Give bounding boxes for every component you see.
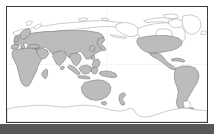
sri-lanka-island	[60, 66, 64, 70]
java-island	[78, 76, 90, 79]
svalbard-island	[26, 21, 33, 26]
greenland	[182, 15, 201, 35]
sumatra-island	[67, 65, 80, 75]
united-states-mainland	[137, 36, 183, 54]
australia-mainland	[81, 80, 111, 101]
korea-peninsula	[89, 45, 95, 51]
world-map-figure	[0, 0, 214, 134]
new-zealand-islands	[119, 93, 126, 106]
oceania-layer	[81, 80, 126, 106]
borneo-island	[79, 65, 91, 74]
india-subcontinent	[53, 51, 67, 66]
indochina-peninsula	[69, 53, 81, 66]
new-guinea-island	[99, 71, 117, 78]
eurasia-africa-layer	[11, 29, 117, 87]
iceland	[201, 31, 207, 35]
anatolia-caucasus	[27, 44, 40, 48]
world-map-canvas	[7, 7, 207, 122]
wrangel-island	[101, 18, 109, 21]
americas-layer	[137, 36, 199, 111]
caribbean-islands	[171, 58, 185, 62]
aleutian-islands	[110, 35, 127, 39]
mexico-central-america	[150, 53, 177, 70]
madagascar-island	[42, 69, 48, 79]
tasmania-island	[101, 101, 107, 105]
map-frame-border	[6, 6, 208, 123]
sulawesi-island	[91, 67, 98, 74]
taiwan-island	[91, 55, 95, 60]
bottom-margin	[0, 124, 214, 134]
alaska-region	[116, 23, 140, 37]
iberia-region	[11, 44, 19, 49]
left-margin	[0, 0, 5, 134]
new-siberian-islands	[78, 18, 88, 21]
